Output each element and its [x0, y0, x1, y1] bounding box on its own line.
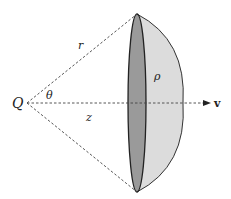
- label-Q: Q: [12, 95, 24, 111]
- label-z: z: [85, 111, 92, 124]
- label-theta: θ: [46, 89, 53, 102]
- label-r: r: [78, 39, 84, 52]
- arrowhead-icon: [203, 100, 211, 106]
- slant-line-top: [27, 14, 137, 103]
- label-rho: ρ: [153, 70, 161, 83]
- spherical-cap-diagram: Q r θ z ρ v: [0, 0, 231, 199]
- label-v: v: [213, 97, 221, 110]
- slant-line-bottom: [27, 103, 137, 192]
